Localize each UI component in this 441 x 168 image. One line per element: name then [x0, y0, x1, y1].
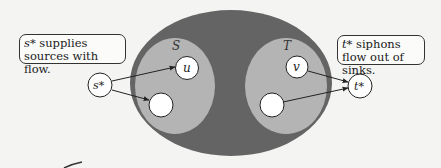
- svg-text:v: v: [293, 60, 300, 74]
- svg-text:t*: t*: [354, 80, 364, 93]
- callout-s-star: s* supplies sources with flow.: [19, 34, 126, 64]
- node-s-star: s*: [88, 73, 112, 97]
- flow-diagram: S T s* u v t*: [0, 0, 441, 168]
- node-u: u: [176, 57, 199, 80]
- node-v: v: [286, 56, 308, 78]
- region-T-label: T: [283, 39, 292, 53]
- node-t-unlabeled: [260, 93, 284, 117]
- callout-t-star-var: t*: [342, 37, 352, 51]
- callout-s-star-var: s*: [24, 36, 36, 50]
- node-s-unlabeled: [149, 93, 173, 117]
- svg-text:s*: s*: [93, 79, 105, 92]
- stray-stroke: [64, 162, 82, 168]
- region-S-label: S: [172, 39, 180, 53]
- node-t-star: t*: [348, 74, 372, 98]
- callout-t-star: t* siphons flow out of sinks.: [337, 35, 425, 65]
- svg-text:u: u: [183, 61, 191, 75]
